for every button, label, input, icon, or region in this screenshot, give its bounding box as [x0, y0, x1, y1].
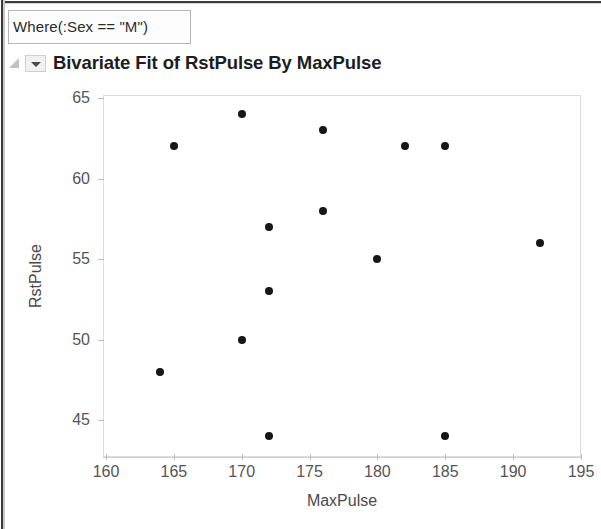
y-axis-tick-mark	[98, 179, 104, 180]
x-axis-tick-label: 170	[212, 463, 272, 481]
y-axis-tick-label: 50	[50, 331, 90, 349]
x-axis-tick-mark	[445, 454, 446, 460]
x-axis-tick-mark	[310, 454, 311, 460]
y-axis-tick-label: 45	[50, 411, 90, 429]
y-axis-title: RstPulse	[27, 244, 45, 308]
x-axis-tick-label: 160	[76, 463, 136, 481]
report-window: Where(:Sex == "M") Bivariate Fit of RstP…	[0, 0, 601, 529]
data-point[interactable]	[238, 336, 246, 344]
x-axis-tick-label: 195	[551, 463, 601, 481]
y-axis-tick-mark	[98, 259, 104, 260]
x-axis-tick-label: 180	[347, 463, 407, 481]
x-axis-tick-label: 175	[280, 463, 340, 481]
x-axis-tick-mark	[513, 454, 514, 460]
x-axis-tick-label: 165	[144, 463, 204, 481]
y-axis-tick-mark	[98, 340, 104, 341]
data-point[interactable]	[265, 223, 273, 231]
data-point[interactable]	[238, 110, 246, 118]
x-axis-tick-mark	[174, 454, 175, 460]
data-point[interactable]	[156, 368, 164, 376]
x-axis-tick-mark	[581, 454, 582, 460]
data-point[interactable]	[265, 287, 273, 295]
scatter-plot: RstPulse MaxPulse 4550556065160165170175…	[0, 0, 601, 529]
x-axis-tick-label: 190	[483, 463, 543, 481]
x-axis-tick-mark	[242, 454, 243, 460]
x-axis-tick-mark	[377, 454, 378, 460]
data-point[interactable]	[401, 142, 409, 150]
y-axis-tick-mark	[98, 420, 104, 421]
y-axis-tick-mark	[98, 98, 104, 99]
x-axis-title: MaxPulse	[307, 492, 377, 510]
data-point[interactable]	[319, 207, 327, 215]
y-axis-tick-label: 55	[50, 250, 90, 268]
data-point[interactable]	[265, 432, 273, 440]
y-axis-tick-label: 60	[50, 170, 90, 188]
y-axis-tick-label: 65	[50, 89, 90, 107]
x-axis-tick-mark	[106, 454, 107, 460]
x-axis-tick-label: 185	[415, 463, 475, 481]
